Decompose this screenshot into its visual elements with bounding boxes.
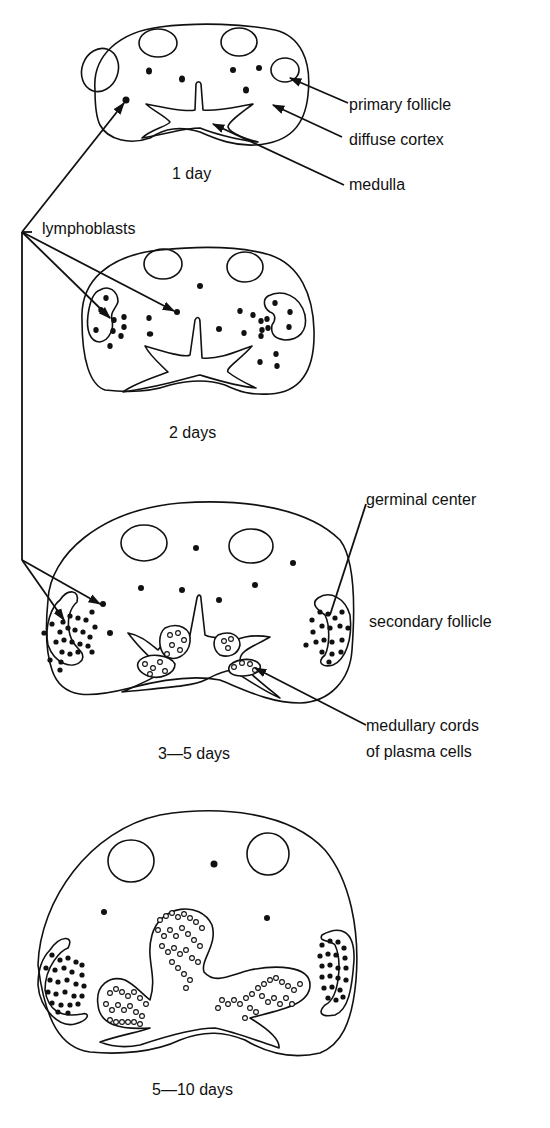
node-stage-4-5-10-days bbox=[38, 811, 357, 1056]
stage-label-2-days: 2 days bbox=[169, 424, 216, 442]
primary-follicle bbox=[76, 43, 125, 97]
medullary-cord bbox=[214, 633, 240, 656]
primary-follicle bbox=[229, 529, 273, 563]
label-lymphoblasts: lymphoblasts bbox=[42, 219, 135, 238]
germinal-center-dots bbox=[43, 938, 348, 1015]
lymphoblast-cluster bbox=[93, 283, 292, 369]
label-primary-follicle: primary follicle bbox=[349, 95, 451, 114]
lymph-node-diagram bbox=[0, 0, 550, 1128]
primary-follicle bbox=[271, 58, 299, 82]
leader-germinal-center bbox=[330, 504, 366, 615]
primary-follicle bbox=[221, 28, 257, 56]
primary-follicle bbox=[247, 833, 289, 875]
label-diffuse-cortex: diffuse cortex bbox=[349, 130, 444, 149]
label-germinal-center: germinal center bbox=[366, 490, 476, 509]
node-stage-1-day bbox=[76, 24, 309, 145]
label-secondary-follicle: secondary follicle bbox=[369, 612, 492, 631]
stage-label-3-5-days: 3—5 days bbox=[158, 745, 230, 763]
stage-label-5-10-days: 5—10 days bbox=[152, 1081, 233, 1099]
developing-follicle-right bbox=[264, 293, 305, 340]
primary-follicle bbox=[144, 249, 182, 279]
node-capsule-outline bbox=[82, 247, 314, 394]
node-stage-3-5-days bbox=[41, 502, 353, 703]
leader-medullary-cords bbox=[255, 668, 366, 725]
leader-medulla bbox=[213, 124, 344, 185]
leader-diffuse-cortex bbox=[273, 105, 342, 137]
secondary-follicle-left bbox=[38, 938, 87, 1024]
node-capsule-outline bbox=[47, 502, 354, 703]
lymphoblast-dots bbox=[41, 545, 350, 673]
medulla-shape bbox=[122, 595, 280, 698]
primary-follicle bbox=[139, 29, 177, 57]
primary-follicle bbox=[108, 840, 154, 882]
primary-follicle bbox=[227, 252, 263, 282]
leader-primary-follicle bbox=[290, 78, 348, 103]
lymphoblast-leaders bbox=[22, 103, 174, 620]
node-stage-2-days bbox=[82, 247, 314, 394]
primary-follicle bbox=[121, 525, 167, 561]
label-medullary-cords-line1: medullary cords bbox=[366, 716, 479, 735]
stage-label-1-day: 1 day bbox=[172, 165, 211, 183]
label-medulla: medulla bbox=[349, 175, 405, 194]
label-medullary-cords-line2: of plasma cells bbox=[366, 742, 472, 761]
